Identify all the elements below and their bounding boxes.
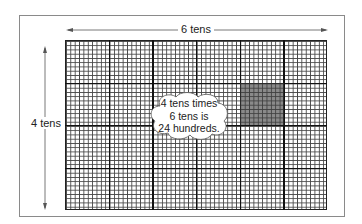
cloud-line-3: 24 hundreds.: [148, 122, 230, 135]
top-dimension-label: 6 tens: [178, 23, 214, 35]
cloud-line-1: 4 tens times: [148, 97, 230, 110]
cloud-line-2: 6 tens is: [148, 110, 230, 123]
cloud-callout-text: 4 tens times 6 tens is 24 hundreds.: [148, 97, 230, 135]
side-dimension-label: 4 tens: [28, 117, 64, 129]
